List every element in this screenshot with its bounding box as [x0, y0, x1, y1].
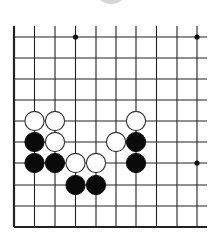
black-stone[interactable] — [86, 175, 105, 194]
star-point-icon — [194, 34, 199, 39]
white-stone[interactable] — [66, 153, 85, 172]
black-stone[interactable] — [126, 132, 145, 151]
white-stone[interactable] — [86, 153, 105, 172]
star-point-icon — [73, 34, 78, 39]
black-stone[interactable] — [126, 153, 145, 172]
black-stone[interactable] — [25, 153, 44, 172]
star-point-icon — [194, 160, 199, 165]
black-stone[interactable] — [25, 132, 44, 151]
black-stone[interactable] — [45, 153, 64, 172]
black-stone[interactable] — [66, 175, 85, 194]
white-stone[interactable] — [45, 132, 64, 151]
white-stone[interactable] — [45, 111, 64, 130]
white-stone[interactable] — [126, 111, 145, 130]
white-stone[interactable] — [25, 111, 44, 130]
white-stone[interactable] — [106, 132, 125, 151]
go-board[interactable] — [0, 0, 222, 245]
